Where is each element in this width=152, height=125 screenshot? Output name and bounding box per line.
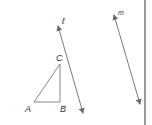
line-m bbox=[114, 15, 140, 104]
label-point-c: C bbox=[56, 53, 63, 63]
line-l bbox=[58, 26, 83, 113]
geometry-diagram: ℓ m C A B bbox=[0, 0, 152, 125]
label-point-a: A bbox=[24, 104, 31, 114]
triangle-abc bbox=[34, 64, 60, 102]
label-line-l: ℓ bbox=[61, 16, 65, 26]
label-line-m: m bbox=[118, 9, 124, 16]
label-point-b: B bbox=[60, 104, 66, 114]
